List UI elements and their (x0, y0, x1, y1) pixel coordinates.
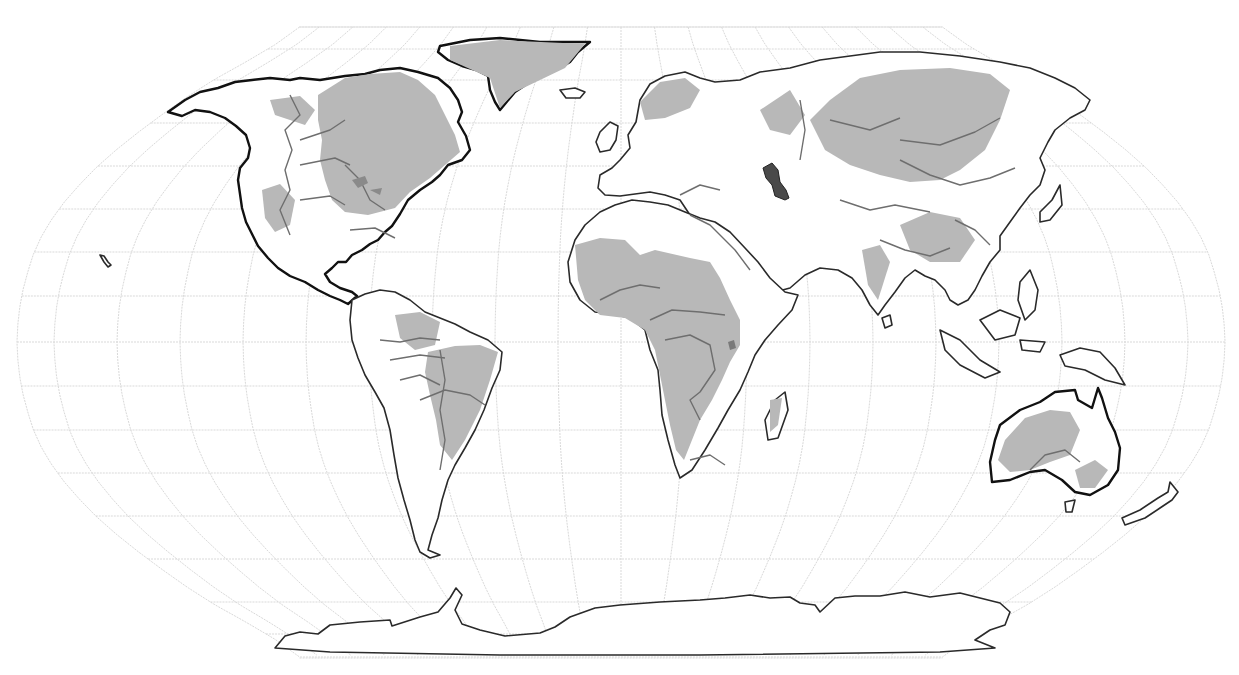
landmass-tasmania (1065, 500, 1075, 512)
landmass-iceland (560, 88, 585, 98)
landmass-sri-lanka (882, 315, 892, 328)
landmass-indonesia (940, 310, 1045, 378)
landmass-new-zealand (1122, 482, 1178, 525)
landmass-new-guinea (1060, 348, 1125, 385)
meridian-line (495, 27, 554, 655)
landmass-hawaii (100, 255, 111, 267)
continent-antarctica (275, 588, 1010, 655)
landmass-japan (1040, 185, 1062, 222)
landmass-philippines (1018, 270, 1038, 320)
world-map (0, 0, 1239, 675)
landmass-british-isles (596, 122, 618, 152)
meridian-line (558, 27, 588, 655)
